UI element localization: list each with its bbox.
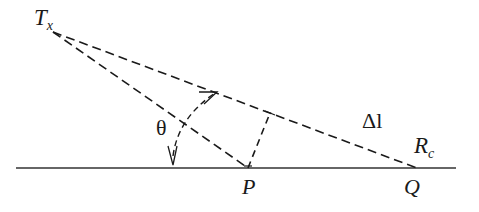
perpendicular-p [248, 113, 270, 168]
label-path-difference: Δl [362, 110, 382, 132]
tick-foot [265, 111, 275, 115]
label-receiver: Rc [414, 134, 434, 157]
label-angle: θ [156, 117, 167, 139]
ray-tx-to-p [53, 32, 248, 168]
label-transmitter-sub: x [47, 18, 53, 33]
label-receiver-sub: c [428, 146, 434, 161]
ray-tx-to-q [53, 32, 417, 168]
label-point-p: P [242, 176, 255, 198]
angle-arc [173, 93, 215, 156]
label-transmitter: Tx [34, 6, 53, 29]
label-point-q: Q [404, 176, 420, 198]
label-receiver-main: R [414, 133, 428, 158]
arrowhead-up-icon [199, 92, 217, 104]
diagram-canvas: Tx θ Δl Rc P Q [0, 0, 479, 212]
label-transmitter-main: T [34, 5, 47, 30]
